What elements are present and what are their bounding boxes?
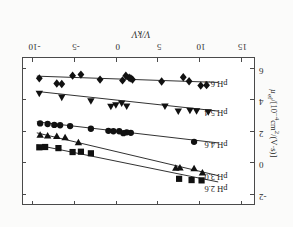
x-tick-label: 15 (238, 42, 247, 51)
series-group (37, 120, 218, 145)
y-tick-label: 0 (259, 160, 271, 169)
data-point-square (88, 150, 94, 156)
data-point-square (36, 144, 42, 150)
x-tick-mark (199, 57, 200, 62)
data-point-circle (105, 128, 111, 134)
series-trend-line (37, 145, 218, 182)
x-tick-mark (157, 57, 158, 62)
x-tick-mark (241, 57, 242, 62)
data-point-triangle-up (123, 103, 130, 110)
x-tick-label: -10 (28, 42, 40, 51)
series-group (36, 91, 219, 116)
y-tick-label: -2 (259, 191, 271, 200)
data-point-triangle-down (190, 165, 197, 172)
series-group (36, 131, 218, 175)
x-tick-label: -5 (72, 42, 80, 51)
series-group (36, 70, 218, 89)
x-tick-mark-top (32, 201, 33, 205)
data-point-square (176, 176, 182, 182)
data-point-square (188, 177, 194, 183)
x-tick-mark-top (199, 201, 200, 205)
y-tick-mark (250, 131, 255, 132)
series-label-ph-6-3: pH 6.3 (204, 80, 227, 89)
data-point-triangle-up (107, 104, 114, 111)
data-point-diamond (186, 77, 193, 85)
y-tick-mark-right (22, 194, 26, 195)
data-point-diamond (69, 71, 76, 79)
y-tick-mark-right (22, 131, 26, 132)
x-tick-label: 10 (196, 42, 205, 51)
x-tick-mark-top (74, 201, 75, 205)
x-tick-mark (74, 57, 75, 62)
rotated-figure-canvas: 151050-5-10 -20246 pH 2.6pH 3.0pH 4.6pH … (0, 0, 293, 227)
data-point-square (69, 149, 75, 155)
x-tick-mark-top (116, 201, 117, 205)
x-tick-label: 5 (157, 42, 162, 51)
data-point-diamond (197, 81, 204, 89)
data-point-circle (67, 123, 73, 129)
data-point-triangle-up (87, 98, 94, 105)
x-axis-label: V/kV (132, 29, 150, 39)
data-point-square (78, 149, 84, 155)
data-point-circle (37, 120, 43, 126)
data-point-triangle-up (193, 108, 200, 115)
series-label-ph-4-6: pH 4.6 (204, 140, 227, 149)
series-group (36, 144, 218, 184)
y-axis-label: µef/[10–4cm2/(V·s)] (266, 89, 281, 157)
x-tick-mark-top (241, 201, 242, 205)
data-point-triangle-up (36, 91, 43, 98)
series-label-ph-3-0: pH 3.0 (204, 172, 227, 181)
data-point-triangle-down (61, 134, 68, 141)
data-point-circle (51, 122, 57, 128)
x-tick-mark-top (157, 201, 158, 205)
y-tick-mark (250, 194, 255, 195)
x-tick-mark (32, 57, 33, 62)
series-label-ph-5-4: pH 5.4 (204, 108, 227, 117)
y-tick-label: 6 (259, 65, 271, 74)
data-point-diamond (36, 74, 43, 82)
y-tick-mark (250, 68, 255, 69)
figure-root: 151050-5-10 -20246 pH 2.6pH 3.0pH 4.6pH … (0, 0, 293, 227)
data-point-circle (44, 121, 50, 127)
data-point-triangle-down (53, 132, 60, 139)
y-tick-mark-right (22, 68, 26, 69)
data-point-diamond (53, 79, 60, 87)
series-label-ph-2-6: pH 2.6 (204, 185, 227, 194)
y-tick-mark-right (22, 162, 26, 163)
data-point-square (42, 144, 48, 150)
data-point-diamond (180, 73, 187, 81)
y-tick-mark (250, 162, 255, 163)
x-tick-label: 0 (115, 42, 120, 51)
data-point-triangle-up (175, 108, 182, 115)
data-point-square (55, 145, 61, 151)
data-point-triangle-up (161, 103, 168, 110)
x-tick-mark (116, 57, 117, 62)
data-point-circle (88, 126, 94, 132)
data-point-diamond (158, 77, 165, 85)
data-point-triangle-down (44, 132, 51, 139)
data-point-triangle-up (186, 108, 193, 115)
data-point-diamond (97, 75, 104, 83)
y-tick-mark-right (22, 99, 26, 100)
y-tick-mark (250, 99, 255, 100)
data-point-circle (116, 128, 122, 134)
data-point-circle (191, 139, 197, 145)
data-point-triangle-up (58, 95, 65, 102)
data-point-circle (57, 122, 63, 128)
